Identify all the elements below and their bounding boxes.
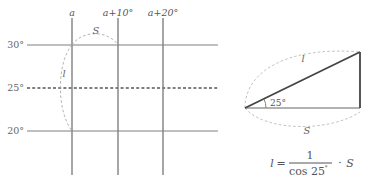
curve-label-s-grid: S — [93, 25, 100, 36]
label-s-triangle: S — [304, 125, 311, 136]
axis-label-a-plus-20: a+20° — [148, 7, 178, 18]
coordinate-grid-group: a a+10° a+20° 30° 25° 20° S l — [7, 7, 218, 175]
formula-denominator-degree: ° — [324, 164, 327, 172]
figure-root: a a+10° a+20° 30° 25° 20° S l — [0, 0, 385, 186]
formula-equals: = — [276, 157, 285, 170]
label-l-triangle: l — [301, 53, 304, 64]
triangle-diagram-group: 25° l S l = 1 cos 25 ° · S — [245, 51, 360, 178]
tick-label-25: 25° — [7, 82, 24, 93]
axis-label-a: a — [69, 7, 75, 18]
curve-label-l-grid: l — [62, 68, 65, 79]
figure-svg: a a+10° a+20° 30° 25° 20° S l — [0, 0, 385, 186]
tick-label-20: 20° — [7, 125, 24, 136]
angle-label-25: 25° — [270, 98, 286, 108]
formula-denominator: cos 25 — [289, 165, 325, 178]
formula-multiply: · — [338, 157, 342, 170]
axis-label-a-plus-10: a+10° — [103, 7, 133, 18]
formula-rhs: S — [346, 157, 354, 170]
formula-lhs: l — [270, 157, 274, 170]
angle-arc-marker — [264, 99, 266, 108]
formula-group: l = 1 cos 25 ° · S — [270, 149, 354, 178]
arc-s-triangle — [245, 108, 360, 127]
formula-numerator: 1 — [307, 149, 314, 162]
tick-label-30: 30° — [7, 39, 24, 50]
